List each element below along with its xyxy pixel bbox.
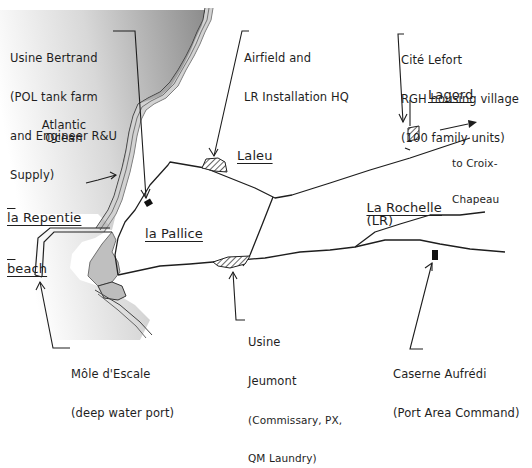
caserne-aufredi-name: Caserne Aufrédi	[393, 368, 520, 381]
mole-escale-desc: (deep water port)	[71, 407, 174, 420]
la-repentie-line-2: beach	[7, 260, 81, 277]
place-la-repentie: la Repentie beach	[7, 175, 81, 294]
atlantic-ocean-text: Atlantic Ocean	[42, 118, 87, 145]
usine-jeumont-name-2: Jeumont	[248, 375, 342, 388]
place-la-pallice: la Pallice	[145, 227, 203, 240]
usine-jeumont-hatched-area	[213, 256, 250, 268]
atlantic-ocean-label: Atlantic Ocean	[34, 119, 94, 145]
la-rochelle-abbr: (LR)	[366, 213, 393, 228]
croix-chapeau-line-2: Chapeau	[452, 193, 499, 205]
mole-escale-label: Môle d'Escale (deep water port)	[71, 342, 174, 433]
airfield-name: Airfield and	[244, 52, 349, 65]
la-repentie-line-1: la Repentie	[7, 209, 81, 226]
mole-escale-name: Môle d'Escale	[71, 368, 174, 381]
place-laleu: Laleu	[237, 149, 273, 162]
caserne-aufredi-label: Caserne Aufrédi (Port Area Command)	[393, 342, 520, 433]
place-la-rochelle: La Rochelle (LR)	[358, 188, 442, 227]
airfield-hatched-area	[202, 158, 227, 172]
usine-jeumont-name-1: Usine	[248, 336, 342, 349]
caserne-aufredi-marker	[432, 250, 438, 260]
usine-bertrand-label: Usine Bertrand (POL tank farm and Engine…	[10, 26, 117, 195]
cite-lefort-name: Cité Lefort	[401, 54, 519, 67]
usine-bertrand-name: Usine Bertrand	[10, 52, 117, 65]
airfield-label: Airfield and LR Installation HQ	[244, 26, 349, 117]
usine-jeumont-desc-1: (Commissary, PX,	[248, 414, 342, 426]
place-lagord: Lagord	[428, 88, 473, 101]
usine-jeumont-label: Usine Jeumont (Commissary, PX, QM Laundr…	[248, 310, 342, 468]
airfield-desc: LR Installation HQ	[244, 91, 349, 104]
croix-chapeau-line-1: to Croix-	[452, 157, 499, 169]
caserne-aufredi-desc: (Port Area Command)	[393, 407, 520, 420]
usine-bertrand-marker	[144, 198, 153, 207]
usine-bertrand-desc-1: (POL tank farm	[10, 91, 117, 104]
usine-jeumont-desc-2: QM Laundry)	[248, 452, 342, 464]
land-boundaries	[115, 138, 505, 275]
croix-chapeau-direction: to Croix- Chapeau	[452, 133, 499, 217]
